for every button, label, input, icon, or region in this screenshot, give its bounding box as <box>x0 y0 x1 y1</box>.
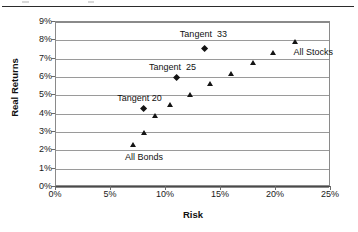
x-tick-mark <box>220 186 221 190</box>
y-tick-mark <box>51 113 55 114</box>
x-tick-label: 5% <box>90 190 130 199</box>
x-axis-title: Risk <box>55 209 331 220</box>
data-point-triangle <box>141 130 147 135</box>
data-label-annotation: All Bonds <box>125 152 163 162</box>
y-tick-mark <box>51 21 55 22</box>
y-axis-title: Real Returns <box>9 48 20 128</box>
data-point-diamond <box>140 105 147 112</box>
data-label-annotation: Tangent 20 <box>117 93 162 103</box>
gridline-horizontal <box>56 59 329 60</box>
data-point-triangle <box>187 92 193 97</box>
gridline-horizontal <box>56 132 329 133</box>
data-point-diamond <box>201 45 208 52</box>
data-point-triangle <box>228 71 234 76</box>
x-tick-label: 15% <box>200 190 240 199</box>
gridline-horizontal <box>56 22 329 23</box>
x-tick-label: 0% <box>35 190 75 199</box>
y-tick-mark <box>51 39 55 40</box>
chart-figure: 0%1%2%3%4%5%6%7%8%9% Tangent 33Tangent 2… <box>0 0 358 232</box>
x-tick-mark <box>110 186 111 190</box>
page-divider-rule <box>2 6 354 7</box>
y-tick-mark <box>51 168 55 169</box>
x-tick-label: 20% <box>255 190 295 199</box>
x-tick-mark <box>275 186 276 190</box>
data-point-diamond <box>173 74 180 81</box>
y-tick-mark <box>51 149 55 150</box>
gridline-horizontal <box>56 187 329 188</box>
plot-area: Tangent 33Tangent 25Tangent 20All BondsA… <box>55 21 330 186</box>
x-tick-mark <box>165 186 166 190</box>
data-label-annotation: Tangent 25 <box>149 62 196 72</box>
gridline-horizontal <box>56 77 329 78</box>
y-tick-mark <box>51 76 55 77</box>
data-point-triangle <box>250 60 256 65</box>
scan-artifact-speck <box>88 1 94 3</box>
data-label-annotation: Tangent 33 <box>180 29 227 39</box>
data-point-triangle <box>152 113 158 118</box>
data-point-triangle <box>292 39 298 44</box>
y-tick-mark <box>51 131 55 132</box>
data-point-triangle <box>130 142 136 147</box>
data-label-annotation: All Stocks <box>294 47 334 57</box>
gridline-horizontal <box>56 114 329 115</box>
gridline-horizontal <box>56 150 329 151</box>
y-tick-mark <box>51 94 55 95</box>
data-point-triangle <box>167 102 173 107</box>
x-tick-mark <box>55 186 56 190</box>
x-tick-label: 25% <box>310 190 350 199</box>
data-point-triangle <box>270 50 276 55</box>
x-tick-label: 10% <box>145 190 185 199</box>
data-point-triangle <box>207 81 213 86</box>
y-tick-mark <box>51 58 55 59</box>
x-tick-mark <box>330 186 331 190</box>
gridline-horizontal <box>56 40 329 41</box>
gridline-horizontal <box>56 169 329 170</box>
